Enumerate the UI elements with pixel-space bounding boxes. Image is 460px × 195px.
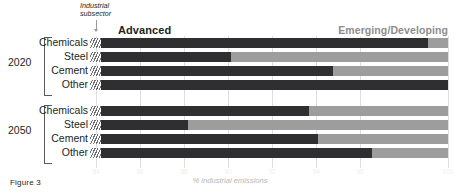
x-axis-tick-label: 90 xyxy=(224,168,231,175)
bar-row[interactable]: Steel xyxy=(0,120,460,130)
bar-row[interactable]: Other xyxy=(0,148,460,158)
stacked-bar xyxy=(101,134,448,144)
x-axis-tick-label: 84 xyxy=(92,168,99,175)
bar-segment-advanced[interactable] xyxy=(101,148,372,158)
row-label: Other xyxy=(0,146,88,158)
hatch-icon xyxy=(90,106,101,116)
x-axis-tick-label: 100 xyxy=(443,168,454,175)
row-label: Steel xyxy=(0,118,88,130)
x-axis-tick-label: 88 xyxy=(180,168,187,175)
bar-segment-emerging[interactable] xyxy=(309,106,448,116)
stacked-bar xyxy=(101,148,448,158)
legend-label-advanced: Advanced xyxy=(118,24,171,36)
x-axis-tick-label: 94 xyxy=(312,168,319,175)
x-axis-tick-label: 92 xyxy=(268,168,275,175)
x-axis-tick-label: 96 xyxy=(356,168,363,175)
bar-segment-emerging[interactable] xyxy=(428,38,448,48)
legend-label-emerging: Emerging/Developing xyxy=(338,24,448,36)
stacked-bar xyxy=(101,80,448,90)
hatch-icon xyxy=(90,134,101,144)
bar-segment-emerging[interactable] xyxy=(372,148,448,158)
row-label: Cement xyxy=(0,132,88,144)
x-axis-tick-label: 86 xyxy=(136,168,143,175)
subsector-annotation: Industrial subsector xyxy=(80,2,140,19)
row-label: Cement xyxy=(0,64,88,76)
row-label: Steel xyxy=(0,50,88,62)
bar-row[interactable]: Steel xyxy=(0,52,460,62)
stacked-bar xyxy=(101,106,448,116)
hatch-icon xyxy=(90,120,101,130)
bar-segment-advanced[interactable] xyxy=(101,52,231,62)
bar-segment-emerging[interactable] xyxy=(188,120,448,130)
row-label: Chemicals xyxy=(0,104,88,116)
bar-segment-advanced[interactable] xyxy=(101,106,309,116)
row-label: Chemicals xyxy=(0,36,88,48)
hatch-icon xyxy=(90,148,101,158)
subsector-arrow-icon xyxy=(96,20,97,31)
hatch-icon xyxy=(90,52,101,62)
hatch-icon xyxy=(90,66,101,76)
hatch-icon xyxy=(90,38,101,48)
bar-segment-emerging[interactable] xyxy=(333,66,448,76)
bar-segment-emerging[interactable] xyxy=(318,134,448,144)
bar-segment-emerging[interactable] xyxy=(231,52,448,62)
bar-row[interactable]: Cement xyxy=(0,134,460,144)
hatch-icon xyxy=(90,80,101,90)
bar-row[interactable]: Chemicals xyxy=(0,106,460,116)
stacked-bar xyxy=(101,52,448,62)
x-axis-title: % industrial emissions xyxy=(0,176,460,185)
bar-row[interactable]: Cement xyxy=(0,66,460,76)
bar-segment-advanced[interactable] xyxy=(101,80,448,90)
bar-row[interactable]: Other xyxy=(0,80,460,90)
bar-segment-advanced[interactable] xyxy=(101,134,318,144)
bar-segment-advanced[interactable] xyxy=(101,66,333,76)
bar-segment-advanced[interactable] xyxy=(101,120,188,130)
stacked-bar xyxy=(101,120,448,130)
figure-container: Industrial subsector Advanced Emerging/D… xyxy=(0,0,460,195)
stacked-bar xyxy=(101,66,448,76)
bar-segment-advanced[interactable] xyxy=(101,38,428,48)
bar-row[interactable]: Chemicals xyxy=(0,38,460,48)
row-label: Other xyxy=(0,78,88,90)
stacked-bar xyxy=(101,38,448,48)
figure-caption: Figure 3 xyxy=(10,178,41,187)
